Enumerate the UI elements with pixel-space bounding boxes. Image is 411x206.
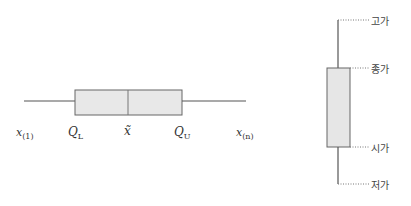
box-plot — [24, 90, 246, 115]
close-price-label: 종가 — [371, 61, 389, 76]
candlestick — [327, 20, 369, 184]
max-label: x(n) — [236, 126, 254, 141]
diagram-canvas — [0, 0, 411, 206]
q-upper-label: QU — [174, 125, 191, 141]
open-price-label: 시가 — [371, 140, 389, 155]
candle-body — [327, 68, 350, 147]
min-label: x(1) — [16, 126, 34, 141]
q-lower-label: QL — [68, 125, 83, 141]
high-price-label: 고가 — [371, 13, 389, 28]
low-price-label: 저가 — [371, 177, 389, 192]
median-label: x̃ — [124, 124, 131, 138]
